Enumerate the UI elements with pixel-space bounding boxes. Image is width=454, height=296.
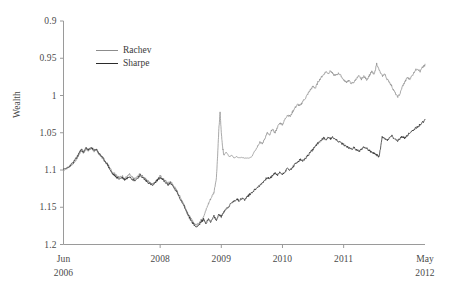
data-series-group bbox=[64, 63, 426, 227]
y-tick-label: 0.95 bbox=[0, 53, 57, 63]
legend-label-rachev: Rachev bbox=[123, 45, 152, 56]
y-axis-title: Wealth bbox=[12, 58, 22, 118]
y-tick-label: 0.9 bbox=[0, 16, 57, 26]
legend-label-sharpe: Sharpe bbox=[123, 58, 149, 69]
y-tick-label: 1.15 bbox=[0, 202, 57, 212]
x-tick-sublabel: 2012 bbox=[415, 268, 434, 278]
y-tick-label: 1.05 bbox=[0, 128, 57, 138]
y-tick-label: 1.1 bbox=[0, 165, 57, 175]
y-tick-label: 1.2 bbox=[0, 240, 57, 250]
x-tick-sublabel: 2006 bbox=[54, 268, 73, 278]
series-line-rachev bbox=[64, 63, 426, 225]
x-tick-label: 2009 bbox=[212, 254, 231, 264]
legend-item-rachev: Rachev bbox=[96, 44, 152, 57]
wealth-line-chart: 1.21.151.11.0510.950.9 Jun20062008200920… bbox=[0, 0, 454, 296]
series-line-sharpe bbox=[64, 119, 426, 227]
x-tick-label: 2008 bbox=[150, 254, 169, 264]
x-tick-label: May bbox=[416, 254, 434, 264]
x-axis-ticks bbox=[160, 245, 344, 249]
legend-item-sharpe: Sharpe bbox=[96, 57, 152, 70]
x-tick-label: 2011 bbox=[334, 254, 353, 264]
chart-legend: Rachev Sharpe bbox=[96, 44, 152, 70]
chart-plot-area bbox=[0, 0, 454, 296]
legend-swatch-rachev bbox=[96, 50, 118, 51]
x-tick-label: 2010 bbox=[273, 254, 292, 264]
y-tick-label: 1 bbox=[0, 91, 57, 101]
x-tick-label: Jun bbox=[57, 254, 71, 264]
legend-swatch-sharpe bbox=[96, 63, 118, 64]
y-axis-ticks bbox=[60, 21, 64, 245]
